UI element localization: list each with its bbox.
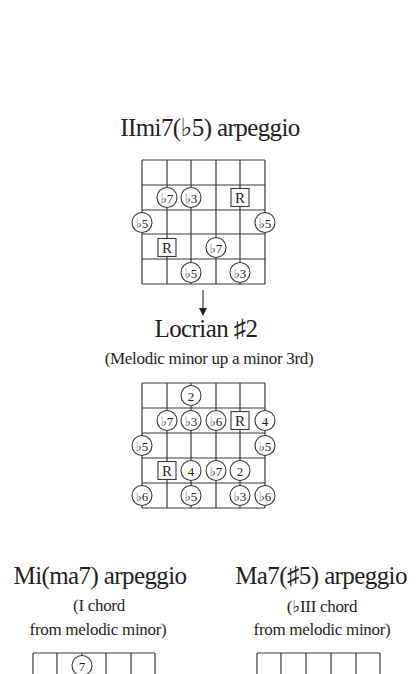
note-label: ♭5 <box>185 489 198 504</box>
note-label: ♭5 <box>185 266 198 281</box>
note-label: R <box>162 463 172 479</box>
note-label: R <box>235 413 245 429</box>
note-marker-degree: ♭5 <box>255 213 275 233</box>
note-label: ♭7 <box>161 414 174 429</box>
note-label: ♭3 <box>234 489 247 504</box>
note-marker-degree: ♭7 <box>157 411 177 431</box>
note-label: ♭7 <box>161 191 174 206</box>
note-marker-root: R <box>231 189 249 207</box>
note-marker-root: R <box>158 462 176 480</box>
note-marker-degree: ♭5 <box>181 263 201 283</box>
note-label: ♭3 <box>234 266 247 281</box>
note-marker-degree: 2 <box>230 461 250 481</box>
ma7s5-fretboard-diagram <box>257 653 380 674</box>
note-label: 2 <box>237 464 244 479</box>
note-label: ♭5 <box>259 439 272 454</box>
note-label: ♭5 <box>259 216 272 231</box>
iimi7b5-fretboard-diagram: ♭7♭3R♭5♭5R♭7♭5♭3 <box>132 160 275 284</box>
note-label: 4 <box>188 464 195 479</box>
note-label: 7 <box>79 659 86 674</box>
note-marker-degree: 4 <box>181 461 201 481</box>
note-marker-degree: ♭3 <box>230 486 250 506</box>
note-marker-degree: ♭6 <box>206 411 226 431</box>
fretboard-diagrams: ♭7♭3R♭5♭5R♭7♭5♭3 2♭7♭3♭6R4♭5♭5R4♭72♭6♭5♭… <box>0 0 420 674</box>
note-marker-degree: ♭7 <box>157 188 177 208</box>
note-label: ♭5 <box>136 439 149 454</box>
note-marker-root: R <box>158 239 176 257</box>
note-marker-degree: ♭3 <box>181 411 201 431</box>
note-marker-degree: 2 <box>181 386 201 406</box>
note-label: ♭3 <box>185 414 198 429</box>
note-marker-degree: ♭6 <box>132 486 152 506</box>
down-arrow-icon <box>199 290 207 316</box>
note-marker-degree: ♭5 <box>181 486 201 506</box>
note-marker-degree: ♭5 <box>132 213 152 233</box>
note-marker-degree: ♭7 <box>206 238 226 258</box>
note-marker-degree: ♭5 <box>255 436 275 456</box>
note-label: ♭5 <box>136 216 149 231</box>
note-label: R <box>162 240 172 256</box>
note-label: R <box>235 190 245 206</box>
note-label: ♭6 <box>259 489 272 504</box>
mima7-fretboard-diagram: 7 <box>33 653 155 674</box>
note-label: ♭3 <box>185 191 198 206</box>
note-marker-degree: ♭6 <box>255 486 275 506</box>
note-marker-degree: 7 <box>72 656 92 674</box>
note-marker-degree: ♭7 <box>206 461 226 481</box>
note-label: 2 <box>188 389 195 404</box>
note-label: 4 <box>262 414 269 429</box>
note-marker-degree: ♭3 <box>230 263 250 283</box>
note-label: ♭7 <box>210 241 223 256</box>
note-marker-degree: 4 <box>255 411 275 431</box>
note-label: ♭6 <box>136 489 149 504</box>
note-marker-degree: ♭5 <box>132 436 152 456</box>
locrian-sharp2-fretboard-diagram: 2♭7♭3♭6R4♭5♭5R4♭72♭6♭5♭3♭6 <box>132 383 275 508</box>
note-marker-root: R <box>231 412 249 430</box>
note-label: ♭6 <box>210 414 223 429</box>
note-marker-degree: ♭3 <box>181 188 201 208</box>
note-label: ♭7 <box>210 464 223 479</box>
